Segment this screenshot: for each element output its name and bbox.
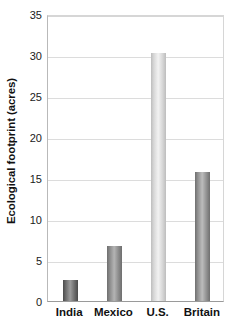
y-axis-title: Ecological footprint (acres) [0,0,22,302]
y-tick-label: 25 [30,91,42,103]
bar-chart: Ecological footprint (acres) 05101520253… [0,0,233,330]
y-tick-label: 0 [36,296,42,308]
y-tick-label: 35 [30,9,42,21]
y-axis-tick-labels: 05101520253035 [22,0,44,330]
bar-britain [195,172,210,301]
x-tick-label: U.S. [146,306,168,318]
y-axis-title-text: Ecological footprint (acres) [5,78,17,224]
bar-u-s [151,53,166,301]
y-tick-label: 30 [30,50,42,62]
x-tick-label: India [56,306,83,318]
x-tick-label: Britain [184,306,220,318]
y-tick-label: 15 [30,173,42,185]
bars-group [48,16,223,301]
y-tick-label: 5 [36,255,42,267]
x-axis-tick-labels: IndiaMexicoU.S.Britain [47,304,224,328]
bar-mexico [107,246,122,301]
bar-india [63,280,78,301]
y-tick-label: 10 [30,214,42,226]
plot-area [47,15,224,302]
x-tick-label: Mexico [94,306,133,318]
y-tick-label: 20 [30,132,42,144]
